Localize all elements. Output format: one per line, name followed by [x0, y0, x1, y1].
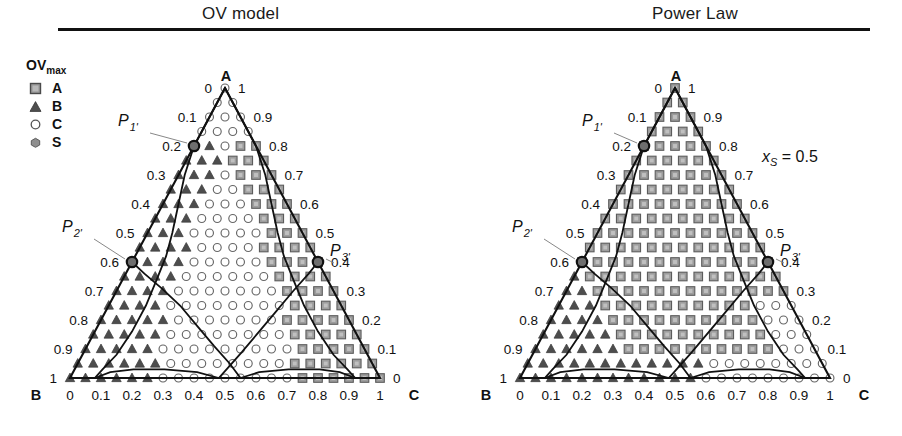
- svg-text:0.3: 0.3: [797, 284, 816, 299]
- svg-text:0: 0: [654, 81, 662, 96]
- svg-text:0.2: 0.2: [123, 388, 142, 403]
- svg-text:A: A: [671, 68, 682, 84]
- svg-text:0.7: 0.7: [535, 284, 554, 299]
- svg-text:0.6: 0.6: [247, 388, 266, 403]
- svg-text:1: 1: [376, 388, 384, 403]
- svg-text:0.4: 0.4: [635, 388, 654, 403]
- svg-text:0.3: 0.3: [604, 388, 623, 403]
- svg-text:0.6: 0.6: [697, 388, 716, 403]
- svg-text:1: 1: [499, 371, 507, 386]
- svg-text:0.1: 0.1: [178, 110, 197, 125]
- svg-text:B: B: [481, 387, 491, 403]
- svg-text:0.2: 0.2: [612, 139, 631, 154]
- svg-text:1: 1: [49, 371, 57, 386]
- svg-text:0.3: 0.3: [147, 168, 166, 183]
- svg-text:0.3: 0.3: [154, 388, 173, 403]
- svg-text:0.9: 0.9: [340, 388, 359, 403]
- svg-text:P1': P1': [118, 112, 139, 133]
- svg-text:P1': P1': [582, 112, 603, 133]
- svg-text:0: 0: [204, 81, 212, 96]
- svg-text:0.1: 0.1: [92, 388, 111, 403]
- svg-text:0.8: 0.8: [759, 388, 778, 403]
- svg-text:0.7: 0.7: [85, 284, 104, 299]
- ternary-plot-ov-model: 0100.10.90.10.20.80.20.30.70.30.40.60.40…: [10, 60, 450, 430]
- svg-text:0: 0: [843, 371, 851, 386]
- svg-text:A: A: [221, 68, 232, 84]
- svg-text:0.6: 0.6: [100, 255, 119, 270]
- svg-text:0.4: 0.4: [131, 197, 150, 212]
- svg-text:0.7: 0.7: [285, 168, 304, 183]
- svg-text:0.2: 0.2: [812, 313, 831, 328]
- svg-text:0.4: 0.4: [185, 388, 204, 403]
- svg-text:0.5: 0.5: [316, 226, 335, 241]
- svg-text:0.5: 0.5: [666, 388, 685, 403]
- ternary-plot-power-law: 0100.10.90.10.20.80.20.30.70.30.40.60.40…: [460, 60, 900, 430]
- svg-text:0.6: 0.6: [300, 197, 319, 212]
- svg-text:0.6: 0.6: [750, 197, 769, 212]
- svg-text:1: 1: [238, 81, 246, 96]
- svg-text:0.3: 0.3: [347, 284, 366, 299]
- svg-text:0: 0: [393, 371, 401, 386]
- svg-text:0.5: 0.5: [566, 226, 585, 241]
- svg-text:0.5: 0.5: [116, 226, 135, 241]
- svg-text:0.9: 0.9: [504, 342, 523, 357]
- svg-text:0.2: 0.2: [362, 313, 381, 328]
- svg-text:0.1: 0.1: [828, 342, 847, 357]
- svg-text:0.2: 0.2: [573, 388, 592, 403]
- svg-text:B: B: [31, 387, 41, 403]
- svg-text:1: 1: [688, 81, 696, 96]
- svg-text:0.8: 0.8: [309, 388, 328, 403]
- svg-text:0.9: 0.9: [704, 110, 723, 125]
- svg-text:P2': P2': [62, 218, 83, 239]
- svg-text:0.7: 0.7: [728, 388, 747, 403]
- svg-text:0.3: 0.3: [597, 168, 616, 183]
- svg-text:0.2: 0.2: [162, 139, 181, 154]
- svg-text:0.1: 0.1: [542, 388, 561, 403]
- svg-text:0.7: 0.7: [735, 168, 754, 183]
- panel-title-right: Power Law: [652, 4, 738, 24]
- svg-text:C: C: [409, 387, 420, 403]
- svg-text:0.1: 0.1: [628, 110, 647, 125]
- figure-root: OV model Power Law OVmax A B: [0, 0, 902, 436]
- svg-text:C: C: [859, 387, 870, 403]
- svg-text:0.4: 0.4: [581, 197, 600, 212]
- svg-text:0: 0: [516, 388, 524, 403]
- svg-text:0.5: 0.5: [766, 226, 785, 241]
- svg-text:0.8: 0.8: [519, 313, 538, 328]
- svg-text:0.6: 0.6: [550, 255, 569, 270]
- svg-text:0.9: 0.9: [790, 388, 809, 403]
- svg-text:P2': P2': [512, 218, 533, 239]
- title-rule: [58, 28, 870, 31]
- svg-text:0.7: 0.7: [278, 388, 297, 403]
- svg-text:0.9: 0.9: [254, 110, 273, 125]
- panel-title-left: OV model: [202, 4, 279, 24]
- svg-text:1: 1: [826, 388, 834, 403]
- svg-text:0.5: 0.5: [216, 388, 235, 403]
- svg-text:0.8: 0.8: [719, 139, 738, 154]
- svg-text:0.1: 0.1: [378, 342, 397, 357]
- svg-text:0.8: 0.8: [69, 313, 88, 328]
- svg-text:0.9: 0.9: [54, 342, 73, 357]
- svg-text:0: 0: [66, 388, 74, 403]
- svg-text:0.8: 0.8: [269, 139, 288, 154]
